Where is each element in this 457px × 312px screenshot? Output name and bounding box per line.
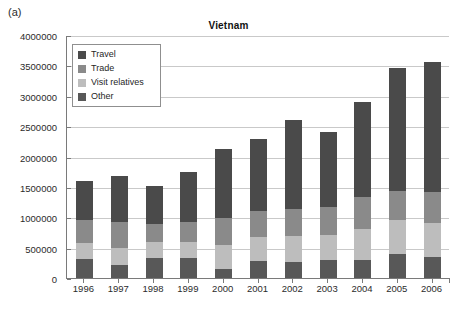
bar-segment — [111, 222, 128, 248]
x-axis-tick-label: 1998 — [142, 283, 163, 294]
legend-item-label: Travel — [91, 50, 116, 59]
bar-segment — [76, 181, 93, 219]
bar-segment — [424, 192, 441, 224]
x-axis-tick-label: 1996 — [73, 283, 94, 294]
bar-segment — [250, 211, 267, 237]
chart-title: Vietnam — [0, 20, 457, 31]
bar-segment — [215, 269, 232, 278]
bar-segment — [250, 139, 267, 211]
bar-segment — [320, 132, 337, 207]
x-axis-tick-label: 2005 — [386, 283, 407, 294]
square-swatch-icon — [78, 79, 86, 87]
x-axis-tick-mark — [432, 278, 433, 283]
bar-group[interactable] — [250, 139, 267, 278]
bar-segment — [320, 235, 337, 259]
y-axis-tick-label: 4000000 — [0, 31, 62, 42]
x-axis-tick-mark — [327, 278, 328, 283]
panel-label: (a) — [8, 6, 21, 18]
bar-group[interactable] — [146, 186, 163, 278]
legend-item-label: Visit relatives — [91, 78, 144, 87]
legend-item[interactable]: Visit relatives — [78, 77, 155, 88]
x-axis-tick-label: 2003 — [317, 283, 338, 294]
y-axis-tick-label: 1500000 — [0, 182, 62, 193]
legend-item-label: Trade — [91, 64, 114, 73]
bar-segment — [354, 102, 371, 197]
bar-segment — [389, 254, 406, 278]
bar-segment — [180, 222, 197, 241]
bar-group[interactable] — [180, 172, 197, 278]
bar-segment — [146, 186, 163, 224]
x-axis-tick-label: 2004 — [351, 283, 372, 294]
y-axis-tick-label: 500000 — [0, 243, 62, 254]
y-axis-tick-label: 2000000 — [0, 152, 62, 163]
legend-item[interactable]: Trade — [78, 63, 155, 74]
x-axis-tick-mark — [397, 278, 398, 283]
bar-segment — [354, 260, 371, 278]
bar-segment — [285, 236, 302, 262]
x-axis-tick-mark — [153, 278, 154, 283]
bar-segment — [285, 120, 302, 209]
square-swatch-icon — [78, 65, 86, 73]
bar-segment — [320, 260, 337, 278]
y-axis-tick-label: 2500000 — [0, 122, 62, 133]
bar-segment — [320, 207, 337, 236]
x-axis-tick-mark — [188, 278, 189, 283]
y-axis-tick-mark — [67, 279, 71, 280]
bar-segment — [424, 223, 441, 257]
x-axis-tick-mark — [118, 278, 119, 283]
bar-segment — [250, 237, 267, 261]
bar-segment — [76, 259, 93, 278]
bar-segment — [146, 224, 163, 242]
x-axis-tick-mark — [449, 278, 450, 283]
bar-segment — [146, 258, 163, 278]
x-axis-tick-label: 2002 — [282, 283, 303, 294]
bar-segment — [424, 257, 441, 278]
bar-group[interactable] — [354, 102, 371, 278]
square-swatch-icon — [78, 93, 86, 101]
x-axis-tick-labels: 1996199719981999200020012002200320042005… — [66, 283, 449, 303]
x-axis-tick-mark — [362, 278, 363, 283]
bar-group[interactable] — [285, 120, 302, 278]
bar-group[interactable] — [215, 149, 232, 278]
bar-segment — [285, 262, 302, 278]
x-axis-tick-label: 2006 — [421, 283, 442, 294]
y-axis-tick-label: 0 — [0, 274, 62, 285]
legend-item[interactable]: Travel — [78, 49, 155, 60]
bar-segment — [111, 176, 128, 222]
x-axis-tick-label: 2000 — [212, 283, 233, 294]
legend-item-label: Other — [91, 92, 114, 101]
bar-group[interactable] — [111, 176, 128, 278]
y-axis-tick-label: 3000000 — [0, 91, 62, 102]
bar-segment — [215, 218, 232, 244]
bar-segment — [180, 172, 197, 222]
bar-group[interactable] — [424, 62, 441, 278]
bar-segment — [389, 68, 406, 190]
x-axis-tick-mark — [292, 278, 293, 283]
legend-item[interactable]: Other — [78, 91, 155, 102]
bar-segment — [389, 220, 406, 253]
y-axis-tick-label: 1000000 — [0, 213, 62, 224]
bar-segment — [250, 261, 267, 278]
bar-segment — [215, 245, 232, 269]
chart-legend: TravelTradeVisit relativesOther — [72, 44, 161, 107]
bar-group[interactable] — [389, 68, 406, 278]
y-axis-tick-label: 3500000 — [0, 61, 62, 72]
x-axis-tick-mark — [83, 278, 84, 283]
bar-segment — [146, 242, 163, 258]
bar-segment — [111, 265, 128, 278]
bar-group[interactable] — [76, 181, 93, 278]
bar-segment — [215, 149, 232, 218]
bar-segment — [76, 243, 93, 259]
bar-segment — [354, 197, 371, 230]
x-axis-tick-label: 1997 — [108, 283, 129, 294]
y-axis-tick-labels: 0500000100000015000002000000250000030000… — [0, 36, 62, 279]
x-axis-tick-label: 2001 — [247, 283, 268, 294]
bar-group[interactable] — [320, 132, 337, 278]
x-axis-tick-mark — [258, 278, 259, 283]
bar-segment — [285, 209, 302, 236]
x-axis-tick-mark — [223, 278, 224, 283]
x-axis-tick-label: 1999 — [177, 283, 198, 294]
square-swatch-icon — [78, 51, 86, 59]
bar-segment — [76, 220, 93, 243]
bar-segment — [389, 191, 406, 221]
